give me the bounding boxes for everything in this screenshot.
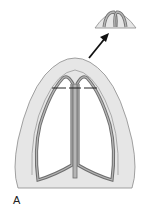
medial-crura bbox=[73, 84, 77, 178]
arrow-icon bbox=[89, 33, 109, 58]
panel-label: A bbox=[13, 194, 20, 206]
diagram-canvas bbox=[0, 0, 150, 219]
inset-domes bbox=[95, 12, 136, 28]
